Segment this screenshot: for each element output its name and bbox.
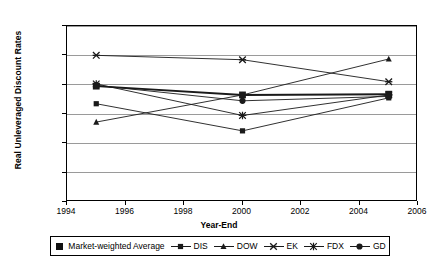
series-ek (93, 52, 393, 85)
x-axis-tick-label: 2002 (275, 207, 325, 216)
x-axis-tick-label: 1994 (41, 207, 91, 216)
legend-item-gd[interactable]: GD (347, 241, 389, 251)
chart-container: Real Unleveraged Discount Rates 0.0%2.0%… (0, 0, 438, 266)
x-axis-tick-label: 2004 (334, 207, 384, 216)
x-axis-tick-mark (300, 201, 301, 205)
legend-label: DOW (237, 241, 258, 251)
legend-item-dis[interactable]: DIS (168, 241, 211, 251)
x-axis-tick-mark (183, 201, 184, 205)
legend-label: FDX (327, 241, 344, 251)
x-axis-tick-label: 1998 (158, 207, 208, 216)
legend-marker-circle-icon (350, 241, 370, 251)
legend-marker-square-filled-icon (54, 241, 65, 251)
x-axis-tick-mark (125, 201, 126, 205)
legend-item-ek[interactable]: EK (261, 241, 301, 251)
data-series-layer (67, 26, 418, 202)
y-axis-title: Real Unleveraged Discount Rates (13, 10, 23, 190)
legend-marker-x-icon (264, 241, 284, 251)
x-axis-title: Year-End (0, 220, 438, 230)
chart-legend: Market-weighted AverageDISDOWEKFDXGD (50, 236, 390, 256)
x-axis-tick-mark (359, 201, 360, 205)
x-axis-tick-mark (66, 201, 67, 205)
legend-item-market-weighted-average[interactable]: Market-weighted Average (51, 241, 167, 251)
legend-label: DIS (194, 241, 208, 251)
legend-label: EK (287, 241, 298, 251)
x-axis-tick-mark (417, 201, 418, 205)
legend-marker-asterisk-icon (304, 241, 324, 251)
legend-marker-square-icon (171, 241, 191, 251)
legend-item-dow[interactable]: DOW (211, 241, 261, 251)
legend-item-fdx[interactable]: FDX (301, 241, 347, 251)
legend-label: Market-weighted Average (68, 241, 164, 251)
legend-marker-triangle-icon (214, 241, 234, 251)
legend-label: GD (373, 241, 386, 251)
plot-area (66, 25, 417, 201)
x-axis-tick-mark (242, 201, 243, 205)
x-axis-tick-label: 2006 (392, 207, 438, 216)
x-axis-tick-label: 1996 (100, 207, 150, 216)
x-axis-tick-label: 2000 (217, 207, 267, 216)
